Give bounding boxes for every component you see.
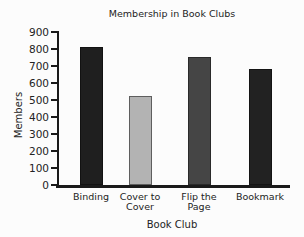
bar-flip-the-page: [188, 57, 211, 185]
y-tick-label: 500: [21, 95, 49, 105]
x-category-label-cover-to-cover: Cover to Cover: [113, 192, 167, 212]
chart-title: Membership in Book Clubs: [109, 8, 235, 19]
bar-binding: [80, 47, 103, 185]
x-category-label-bookmark: Bookmark: [233, 192, 287, 202]
x-category-label-flip-the-page: Flip the Page: [172, 192, 226, 212]
y-axis-tick: [51, 99, 58, 101]
bar-bookmark: [249, 69, 272, 185]
y-axis-tick: [51, 82, 58, 84]
y-tick-label: 600: [21, 78, 49, 88]
y-tick-label: 700: [21, 61, 49, 71]
y-axis-line: [57, 31, 59, 187]
y-tick-label: 900: [21, 27, 49, 37]
x-axis-line: [56, 185, 290, 188]
y-axis-tick: [51, 31, 58, 33]
y-tick-label: 300: [21, 129, 49, 139]
y-axis-tick: [51, 184, 58, 186]
y-axis-tick: [51, 65, 58, 67]
y-tick-label: 400: [21, 112, 49, 122]
y-axis-tick: [51, 133, 58, 135]
y-tick-label: 200: [21, 146, 49, 156]
x-category-label-binding: Binding: [64, 192, 118, 202]
y-axis-tick: [51, 150, 58, 152]
y-tick-label: 800: [21, 44, 49, 54]
y-axis-tick: [51, 48, 58, 50]
bar-cover-to-cover: [129, 96, 152, 185]
y-tick-label: 100: [21, 163, 49, 173]
bar-chart: Membership in Book Clubs Members 0100200…: [0, 0, 304, 237]
x-axis-label: Book Club: [147, 219, 198, 230]
y-tick-label: 0: [21, 180, 49, 190]
y-axis-tick: [51, 167, 58, 169]
y-axis-tick: [51, 116, 58, 118]
